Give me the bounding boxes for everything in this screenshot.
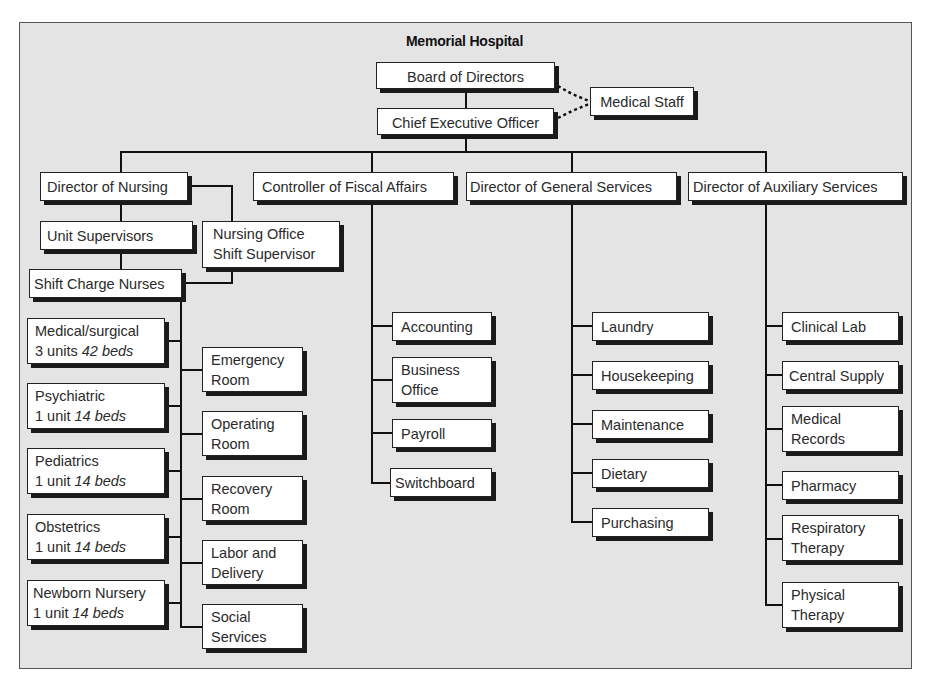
node-shift-charge-nurses[interactable]: Shift Charge Nurses bbox=[29, 269, 182, 298]
unit-beds: 42 beds bbox=[82, 343, 134, 359]
unit-count: 1 unit bbox=[35, 473, 70, 489]
node-label: Pharmacy bbox=[791, 478, 856, 494]
node-label: Medical Staff bbox=[600, 94, 684, 110]
node-label-line1: Social bbox=[211, 607, 302, 627]
node-accounting[interactable]: Accounting bbox=[392, 312, 492, 341]
unit-name: Psychiatric bbox=[35, 386, 164, 406]
node-medical-records[interactable]: Medical Records bbox=[782, 406, 899, 452]
node-label: Maintenance bbox=[601, 417, 684, 433]
node-purchasing[interactable]: Purchasing bbox=[592, 508, 709, 537]
node-chief-executive-officer[interactable]: Chief Executive Officer bbox=[377, 108, 554, 135]
node-label: Controller of Fiscal Affairs bbox=[262, 179, 427, 195]
node-label-line1: Emergency bbox=[211, 350, 302, 370]
node-label-line2: Therapy bbox=[791, 538, 898, 558]
node-recovery-room[interactable]: Recovery Room bbox=[202, 476, 303, 521]
node-unit-medical-surgical[interactable]: Medical/surgical 3 units 42 beds bbox=[27, 318, 165, 364]
node-laundry[interactable]: Laundry bbox=[592, 312, 709, 341]
unit-capacity: 1 unit 14 beds bbox=[35, 471, 164, 491]
node-pharmacy[interactable]: Pharmacy bbox=[782, 471, 899, 500]
node-operating-room[interactable]: Operating Room bbox=[202, 411, 303, 456]
node-label: Payroll bbox=[401, 426, 445, 442]
node-emergency-room[interactable]: Emergency Room bbox=[202, 347, 303, 392]
node-label: Board of Directors bbox=[407, 69, 524, 85]
unit-count: 1 unit bbox=[35, 539, 70, 555]
node-unit-obstetrics[interactable]: Obstetrics 1 unit 14 beds bbox=[27, 514, 165, 560]
unit-beds: 14 beds bbox=[75, 539, 127, 555]
node-dietary[interactable]: Dietary bbox=[592, 459, 709, 488]
unit-beds: 14 beds bbox=[75, 408, 127, 424]
node-label-line2: Services bbox=[211, 627, 302, 647]
unit-count: 1 unit bbox=[35, 408, 70, 424]
node-label-line2: Office bbox=[401, 380, 491, 400]
unit-name: Medical/surgical bbox=[35, 321, 164, 341]
node-label: Switchboard bbox=[395, 475, 475, 491]
node-medical-staff[interactable]: Medical Staff bbox=[590, 87, 694, 116]
node-unit-supervisors[interactable]: Unit Supervisors bbox=[40, 221, 193, 250]
node-business-office[interactable]: Business Office bbox=[392, 357, 492, 403]
node-unit-pediatrics[interactable]: Pediatrics 1 unit 14 beds bbox=[27, 448, 165, 494]
node-label: Accounting bbox=[401, 319, 473, 335]
node-label-line2: Records bbox=[791, 429, 898, 449]
unit-capacity: 1 unit 14 beds bbox=[33, 603, 164, 623]
node-unit-newborn-nursery[interactable]: Newborn Nursery 1 unit 14 beds bbox=[27, 580, 165, 626]
unit-name: Pediatrics bbox=[35, 451, 164, 471]
node-central-supply[interactable]: Central Supply bbox=[782, 361, 899, 390]
node-label-line2: Room bbox=[211, 499, 302, 519]
node-label: Clinical Lab bbox=[791, 319, 866, 335]
node-label-line2: Room bbox=[211, 434, 302, 454]
node-label-line1: Nursing Office bbox=[213, 224, 339, 244]
node-label-line1: Recovery bbox=[211, 479, 302, 499]
unit-capacity: 1 unit 14 beds bbox=[35, 537, 164, 557]
node-housekeeping[interactable]: Housekeeping bbox=[592, 361, 709, 390]
node-label: Director of Auxiliary Services bbox=[693, 179, 878, 195]
node-label: Housekeeping bbox=[601, 368, 694, 384]
node-label: Dietary bbox=[601, 466, 647, 482]
node-label-line1: Physical bbox=[791, 585, 898, 605]
unit-beds: 14 beds bbox=[75, 473, 127, 489]
unit-capacity: 1 unit 14 beds bbox=[35, 406, 164, 426]
node-label-line1: Operating bbox=[211, 414, 302, 434]
node-label: Director of General Services bbox=[470, 179, 652, 195]
unit-count: 3 units bbox=[35, 343, 78, 359]
node-label: Laundry bbox=[601, 319, 653, 335]
node-social-services[interactable]: Social Services bbox=[202, 604, 303, 649]
node-label: Central Supply bbox=[789, 368, 884, 384]
unit-name: Obstetrics bbox=[35, 517, 164, 537]
node-label-line2: Delivery bbox=[211, 563, 302, 583]
node-label-line1: Respiratory bbox=[791, 518, 898, 538]
node-label-line2: Room bbox=[211, 370, 302, 390]
node-label: Shift Charge Nurses bbox=[34, 276, 165, 292]
node-director-of-general-services[interactable]: Director of General Services bbox=[466, 172, 677, 201]
unit-count: 1 unit bbox=[33, 605, 68, 621]
node-label: Purchasing bbox=[601, 515, 674, 531]
node-label-line1: Medical bbox=[791, 409, 898, 429]
node-controller-of-fiscal-affairs[interactable]: Controller of Fiscal Affairs bbox=[253, 172, 454, 201]
unit-capacity: 3 units 42 beds bbox=[35, 341, 164, 361]
node-board-of-directors[interactable]: Board of Directors bbox=[376, 62, 555, 89]
node-physical-therapy[interactable]: Physical Therapy bbox=[782, 582, 899, 628]
node-label-line1: Business bbox=[401, 360, 491, 380]
node-label: Director of Nursing bbox=[47, 179, 168, 195]
node-label: Unit Supervisors bbox=[47, 228, 153, 244]
unit-beds: 14 beds bbox=[73, 605, 125, 621]
node-maintenance[interactable]: Maintenance bbox=[592, 410, 709, 439]
node-label-line2: Therapy bbox=[791, 605, 898, 625]
node-label: Chief Executive Officer bbox=[392, 115, 539, 131]
node-label-line1: Labor and bbox=[211, 543, 302, 563]
node-unit-psychiatric[interactable]: Psychiatric 1 unit 14 beds bbox=[27, 383, 165, 429]
node-label-line2: Shift Supervisor bbox=[213, 244, 339, 264]
node-labor-and-delivery[interactable]: Labor and Delivery bbox=[202, 540, 303, 585]
node-respiratory-therapy[interactable]: Respiratory Therapy bbox=[782, 515, 899, 561]
node-director-of-auxiliary-services[interactable]: Director of Auxiliary Services bbox=[688, 172, 903, 201]
node-nursing-office-shift-supervisor[interactable]: Nursing Office Shift Supervisor bbox=[202, 221, 340, 268]
node-clinical-lab[interactable]: Clinical Lab bbox=[782, 312, 899, 341]
node-director-of-nursing[interactable]: Director of Nursing bbox=[40, 172, 188, 201]
node-switchboard[interactable]: Switchboard bbox=[390, 468, 492, 497]
unit-name: Newborn Nursery bbox=[33, 583, 164, 603]
node-payroll[interactable]: Payroll bbox=[392, 419, 492, 448]
